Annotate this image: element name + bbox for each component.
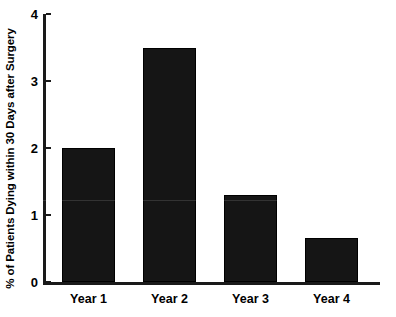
y-tick-label: 4 xyxy=(12,8,38,21)
y-tick-mark xyxy=(46,214,51,216)
x-tick-label-year-1: Year 1 xyxy=(62,292,115,306)
y-tick-label: 2 xyxy=(12,142,38,155)
y-tick-mark xyxy=(46,147,51,149)
bar-chart: % of Patients Dying within 30 Days after… xyxy=(0,0,396,317)
bar-year-4 xyxy=(305,238,358,282)
x-axis-line xyxy=(43,282,380,285)
bar-year-1 xyxy=(62,148,115,282)
x-tick-label-year-2: Year 2 xyxy=(143,292,196,306)
y-axis-title: % of Patients Dying within 30 Days after… xyxy=(0,0,20,317)
y-tick-label: 1 xyxy=(12,209,38,222)
y-tick-label: 0 xyxy=(12,276,38,289)
bar-year-2 xyxy=(143,48,196,283)
y-tick-mark xyxy=(46,80,51,82)
x-tick-label-year-4: Year 4 xyxy=(305,292,358,306)
plot-area: 0 1 2 3 4 Year 1 Year 2 Year 3 Year 4 xyxy=(43,14,380,282)
y-tick-mark xyxy=(46,13,51,15)
x-tick-label-year-3: Year 3 xyxy=(224,292,277,306)
y-tick-mark xyxy=(46,281,51,283)
y-tick-label: 3 xyxy=(12,75,38,88)
bar-year-3 xyxy=(224,195,277,282)
